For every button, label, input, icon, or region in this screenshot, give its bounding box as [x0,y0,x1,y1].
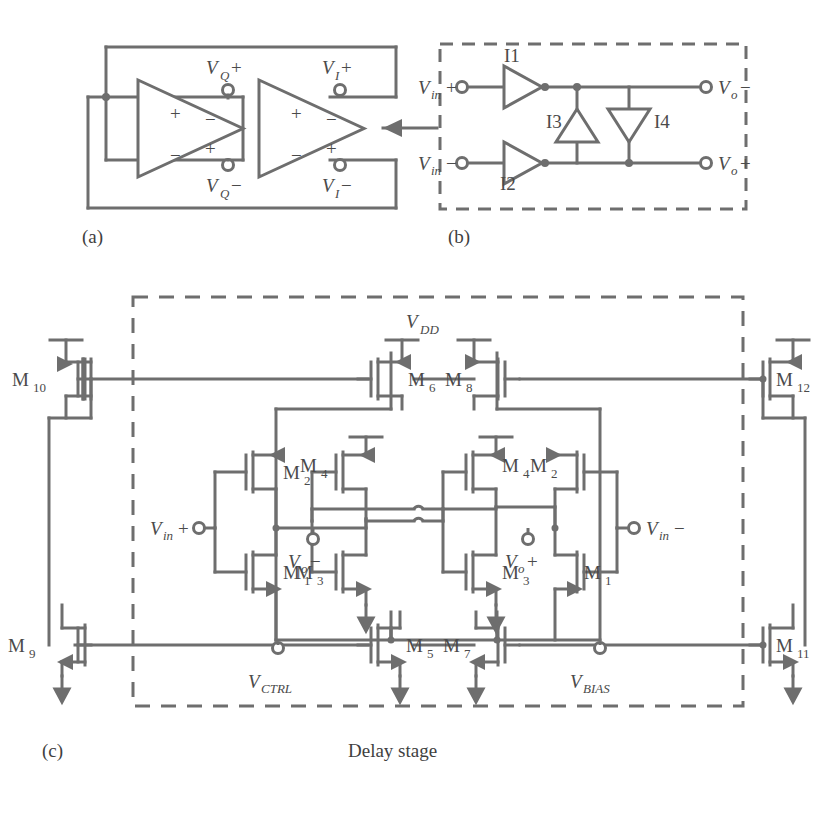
svg-text:8: 8 [466,380,473,395]
svg-text:11: 11 [797,646,810,661]
stage1-in-plus: + [170,103,181,124]
svg-text:10: 10 [33,380,46,395]
stage2-in-plus: + [291,103,302,124]
panel-c-caption: (c) [42,740,63,762]
panel-a-caption: (a) [82,226,103,248]
svg-text:−: − [341,175,352,196]
svg-text:+: + [446,77,457,98]
svg-text:M: M [300,455,317,476]
svg-text:in: in [431,163,441,178]
svg-text:M: M [584,562,601,583]
stage2-in-minus: − [326,109,337,130]
svg-text:I: I [334,68,340,83]
svg-text:CTRL: CTRL [261,681,292,696]
svg-text:2: 2 [551,466,558,481]
svg-text:M: M [502,455,519,476]
svg-text:in: in [659,528,669,543]
svg-text:−: − [231,175,242,196]
svg-text:o: o [731,163,738,178]
svg-text:+: + [341,57,352,78]
panel-b-caption: (b) [448,226,470,248]
inverter-I3-label: I3 [546,111,562,132]
svg-text:+: + [178,518,189,539]
inverter-I4-label: I4 [654,111,670,132]
svg-text:4: 4 [523,466,530,481]
svg-text:M: M [445,369,462,390]
circuit-schematic: + − + − + − + − V Q + V Q − V I + V I − … [0,0,834,814]
inverter-I1-label: I1 [504,45,520,66]
svg-text:+: + [231,57,242,78]
vo-minus-terminal [308,534,319,545]
svg-text:M: M [408,369,425,390]
svg-text:−: − [740,77,751,98]
svg-text:M: M [8,635,25,656]
svg-text:+: + [527,551,538,572]
svg-text:o: o [518,561,525,576]
stage2-out-plus: + [326,138,337,159]
svg-text:6: 6 [429,380,436,395]
svg-text:M: M [776,635,793,656]
svg-text:M: M [776,369,793,390]
stage1-out-minus: − [170,145,181,166]
svg-text:M: M [283,462,300,483]
svg-text:M: M [12,369,29,390]
svg-text:M: M [443,635,460,656]
svg-text:−: − [310,551,321,572]
vin-minus-terminal [629,523,640,534]
svg-text:5: 5 [427,646,434,661]
svg-text:Q: Q [220,68,230,83]
svg-text:M: M [406,635,423,656]
svg-text:in: in [163,528,173,543]
svg-text:DD: DD [419,322,439,337]
stage2-out-minus: − [291,145,302,166]
stage1-in-minus: − [205,109,216,130]
delay-stage-label: Delay stage [348,740,437,761]
svg-text:−: − [446,153,457,174]
svg-text:+: + [740,153,751,174]
svg-text:1: 1 [605,573,612,588]
svg-text:4: 4 [321,466,328,481]
vo-plus-terminal [523,534,534,545]
svg-text:o: o [301,561,308,576]
svg-text:7: 7 [464,646,471,661]
svg-text:3: 3 [317,573,324,588]
svg-text:12: 12 [797,380,810,395]
svg-text:Q: Q [220,186,230,201]
svg-text:9: 9 [29,646,36,661]
svg-text:in: in [431,87,441,102]
stage1-out-plus: + [205,138,216,159]
svg-text:I: I [334,186,340,201]
inverter-I2-label: I2 [500,173,516,194]
svg-text:o: o [731,87,738,102]
vin-plus-terminal [194,523,205,534]
svg-text:BIAS: BIAS [583,681,610,696]
svg-text:M: M [530,455,547,476]
svg-text:−: − [674,518,685,539]
figure-canvas: + − + − + − + − V Q + V Q − V I + V I − … [0,0,834,814]
junction-dot [102,93,110,101]
